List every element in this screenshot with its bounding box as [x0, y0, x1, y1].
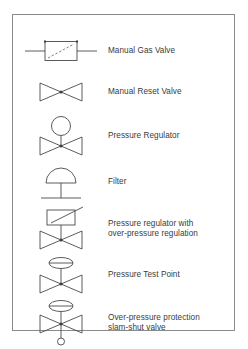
legend-label: Manual Gas Valve	[108, 46, 234, 57]
legend-row: Pressure Test Point	[13, 253, 234, 297]
legend-row: Pressure regulator with over-pressure re…	[13, 205, 234, 253]
symbol-cell	[13, 162, 108, 202]
pressure-regulator-over-pressure-symbol	[21, 206, 101, 252]
legend-label: Over-pressure protection slam-shut valve	[108, 313, 234, 334]
symbol-cell	[13, 298, 108, 348]
legend-label: Filter	[108, 177, 234, 188]
symbol-cell	[13, 254, 108, 296]
pressure-regulator-symbol	[21, 114, 101, 158]
filter-symbol	[21, 162, 101, 202]
symbol-cell	[13, 206, 108, 252]
legend-label: Pressure Regulator	[108, 131, 234, 142]
legend-row: Manual Gas Valve	[13, 33, 234, 69]
slam-shut-valve-symbol	[21, 298, 101, 348]
legend-label: Manual Reset Valve	[108, 87, 234, 98]
legend-row: Filter	[13, 161, 234, 203]
symbol-legend-panel: Manual Gas Valve Manual Reset Valve	[12, 14, 235, 331]
symbol-cell	[13, 77, 108, 107]
legend-label: Pressure Test Point	[108, 270, 234, 281]
legend-label: Pressure regulator with over-pressure re…	[108, 219, 234, 240]
manual-gas-valve-symbol	[21, 35, 101, 67]
legend-row: Over-pressure protection slam-shut valve	[13, 297, 234, 349]
symbol-cell	[13, 114, 108, 158]
pressure-test-point-symbol	[21, 254, 101, 296]
legend-row: Manual Reset Valve	[13, 75, 234, 109]
legend-list: Manual Gas Valve Manual Reset Valve	[13, 15, 234, 330]
legend-row: Pressure Regulator	[13, 113, 234, 159]
symbol-cell	[13, 35, 108, 67]
manual-reset-valve-symbol	[21, 77, 101, 107]
